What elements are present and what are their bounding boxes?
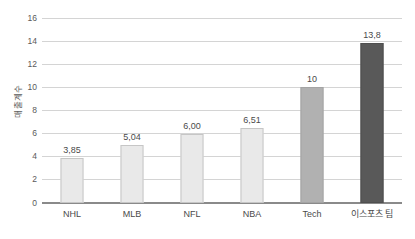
y-axis-tick-label: 0 — [11, 199, 37, 207]
y-axis-tick-label: 12 — [11, 60, 37, 68]
bar-slot: 3,85 — [42, 18, 102, 203]
y-axis-tick-label: 14 — [11, 37, 37, 45]
bar-value-label: 13,8 — [363, 30, 381, 40]
bar-slot: 5,04 — [102, 18, 162, 203]
x-axis-tick-label: 이스포츠 팀 — [342, 207, 402, 221]
bar-value-label: 3,85 — [63, 145, 81, 155]
y-axis-tick-label: 2 — [11, 175, 37, 183]
y-axis-tick-label: 8 — [11, 106, 37, 114]
y-axis-tick-label: 10 — [11, 83, 37, 91]
bar[interactable] — [301, 87, 324, 203]
bar[interactable] — [121, 145, 144, 203]
x-axis-tick-label: MLB — [102, 207, 162, 221]
bar[interactable] — [61, 158, 84, 203]
bar[interactable] — [241, 128, 264, 203]
bar-value-label: 6,51 — [243, 115, 261, 125]
x-axis-tick-label: NBA — [222, 207, 282, 221]
bar-value-label: 10 — [307, 74, 317, 84]
x-axis-tick-label: NHL — [42, 207, 102, 221]
x-axis-tick-labels: NHLMLBNFLNBATech이스포츠 팀 — [42, 207, 402, 229]
x-axis-tick-label: Tech — [282, 207, 342, 221]
bar-slot: 13,8 — [342, 18, 402, 203]
bar-chart: 매출계수 0246810121416 3,855,046,006,511013,… — [0, 0, 415, 239]
y-axis-tick-label: 6 — [11, 129, 37, 137]
bar-value-label: 5,04 — [123, 132, 141, 142]
bar[interactable] — [361, 43, 384, 203]
bar-slot: 10 — [282, 18, 342, 203]
plot-area: 3,855,046,006,511013,8 — [42, 18, 402, 203]
y-axis-tick-label: 4 — [11, 152, 37, 160]
y-axis-title: 매출계수 — [13, 69, 23, 133]
bar-value-label: 6,00 — [183, 121, 201, 131]
y-axis-tick-label: 16 — [11, 14, 37, 22]
bar[interactable] — [181, 134, 204, 203]
bar-slot: 6,00 — [162, 18, 222, 203]
x-axis-tick-label: NFL — [162, 207, 222, 221]
bar-slot: 6,51 — [222, 18, 282, 203]
